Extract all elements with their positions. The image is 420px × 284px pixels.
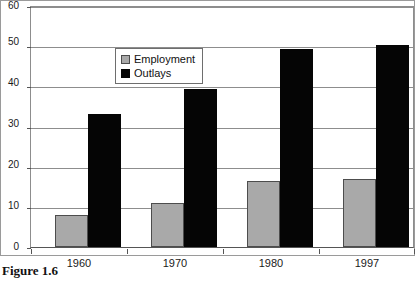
y-tick-label-40: 40: [0, 78, 19, 88]
bar-employment-1970[interactable]: [151, 203, 184, 247]
x-tick-label-1980: 1980: [231, 257, 311, 269]
x-tick-label-1997: 1997: [327, 257, 407, 269]
x-tick-4: [414, 249, 415, 254]
x-tick-1: [127, 249, 128, 254]
bar-group-1980: [247, 6, 313, 247]
chart-legend: Employment Outlays: [115, 48, 203, 84]
y-tick-label-50: 50: [0, 37, 19, 47]
y-tick-label-20: 20: [0, 160, 19, 170]
y-tick-label-30: 30: [0, 119, 19, 129]
bar-group-1970: [151, 6, 217, 247]
x-tick-2: [223, 249, 224, 254]
y-tick-mark-30: [27, 128, 31, 129]
y-tick-mark-50: [27, 47, 31, 48]
bar-outlays-1960[interactable]: [88, 114, 121, 247]
legend-item-employment[interactable]: Employment: [121, 52, 195, 66]
plot-area: 1960 1970 1980 1997 Employment Outlays: [30, 6, 414, 248]
y-tick-label-60: 60: [0, 1, 19, 11]
legend-label-employment: Employment: [134, 53, 195, 65]
y-tick-mark-60: [27, 7, 31, 8]
figure-container: 60 50 40 30 20 10 0: [0, 0, 420, 284]
bar-employment-1960[interactable]: [55, 215, 88, 247]
chart-frame: 60 50 40 30 20 10 0: [0, 0, 415, 256]
figure-caption: Figure 1.6: [2, 263, 58, 279]
black-square-icon: [121, 69, 130, 78]
legend-item-outlays[interactable]: Outlays: [121, 66, 195, 80]
legend-label-outlays: Outlays: [134, 67, 171, 79]
bar-group-1960: [55, 6, 121, 247]
y-tick-mark-10: [27, 208, 31, 209]
y-tick-mark-40: [27, 87, 31, 88]
bar-outlays-1980[interactable]: [280, 49, 313, 247]
gray-square-icon: [121, 55, 130, 64]
y-tick-mark-20: [27, 168, 31, 169]
bar-employment-1997[interactable]: [343, 179, 376, 247]
x-tick-label-1970: 1970: [135, 257, 215, 269]
bar-employment-1980[interactable]: [247, 181, 280, 247]
y-tick-label-0: 0: [0, 242, 19, 252]
x-tick-0: [31, 249, 32, 254]
bar-group-1997: [343, 6, 409, 247]
bar-outlays-1997[interactable]: [376, 45, 409, 247]
x-tick-3: [319, 249, 320, 254]
y-tick-label-10: 10: [0, 201, 19, 211]
bar-outlays-1970[interactable]: [184, 89, 217, 247]
